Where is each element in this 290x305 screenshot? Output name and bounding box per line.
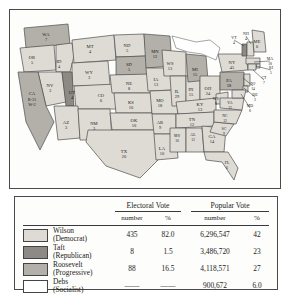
svg-text:SC: SC xyxy=(222,127,227,131)
svg-text:CA: CA xyxy=(29,91,36,96)
svg-text:NM: NM xyxy=(90,121,98,126)
svg-text:GA: GA xyxy=(209,134,216,139)
header-popular-vote: Popular Vote xyxy=(191,201,269,210)
svg-text:NJ: NJ xyxy=(251,82,256,86)
california-label: CA R-11 W-2 xyxy=(28,91,37,107)
subheader-popular-pct: % xyxy=(245,214,269,222)
svg-text:NE: NE xyxy=(126,81,132,86)
svg-text:7: 7 xyxy=(263,81,265,85)
state-shape-md[interactable] xyxy=(232,90,246,98)
svg-text:IN: IN xyxy=(188,87,194,92)
rule-electoral xyxy=(115,211,181,212)
subheader-electoral-number: number xyxy=(115,214,149,222)
svg-text:12: 12 xyxy=(153,54,157,59)
svg-text:OH: OH xyxy=(205,86,212,91)
candidate-name-block: Roosevelt(Progressive) xyxy=(53,261,115,278)
candidate-name-block: Wilson(Democrat) xyxy=(53,227,115,244)
svg-text:SD: SD xyxy=(126,62,133,67)
svg-text:MN: MN xyxy=(151,49,159,54)
svg-text:CT: CT xyxy=(261,76,267,80)
svg-text:4: 4 xyxy=(245,37,247,41)
svg-text:WA: WA xyxy=(42,32,50,37)
cell-popular-number: 4,118,571 xyxy=(191,264,239,273)
cell-popular-pct: 23 xyxy=(245,247,269,256)
state-shape-mt[interactable] xyxy=(72,35,116,63)
svg-text:12: 12 xyxy=(223,119,227,123)
state-shape-ct[interactable] xyxy=(248,64,256,70)
state-shape-or[interactable] xyxy=(20,45,56,72)
svg-text:AL: AL xyxy=(190,133,196,137)
svg-text:9: 9 xyxy=(223,132,225,136)
svg-text:MT: MT xyxy=(86,44,93,49)
state-shape-vt[interactable] xyxy=(242,44,247,56)
svg-text:MA: MA xyxy=(267,57,274,61)
svg-text:VT: VT xyxy=(231,36,237,40)
svg-text:IA: IA xyxy=(153,77,159,82)
cell-electoral-number: 88 xyxy=(115,264,149,273)
state-shape-nh[interactable] xyxy=(247,42,254,56)
state-shape-nj[interactable] xyxy=(244,74,250,86)
svg-text:6: 6 xyxy=(226,166,228,170)
svg-text:OR: OR xyxy=(29,55,36,60)
svg-text:KY: KY xyxy=(197,102,204,107)
svg-text:MI: MI xyxy=(192,67,198,72)
cell-popular-pct: 27 xyxy=(245,264,269,273)
svg-text:ID: ID xyxy=(56,59,62,64)
cell-popular-number: 6,296,547 xyxy=(191,230,239,239)
svg-text:DE: DE xyxy=(252,93,258,97)
state-shape-nc[interactable] xyxy=(214,110,242,124)
subheader-electoral-pct: % xyxy=(155,214,181,222)
cell-electoral-pct: 16.5 xyxy=(155,264,181,273)
svg-text:MS: MS xyxy=(174,134,180,138)
state-shape-fl[interactable] xyxy=(204,152,238,180)
svg-text:8: 8 xyxy=(249,109,251,113)
svg-text:12: 12 xyxy=(190,122,194,127)
svg-text:W-2: W-2 xyxy=(28,102,36,107)
svg-text:UT: UT xyxy=(69,90,75,95)
cell-popular-pct: 42 xyxy=(245,230,269,239)
candidate-name-block: Taft(Republican) xyxy=(53,244,115,261)
svg-text:RI: RI xyxy=(269,66,274,70)
subheader-popular-number: number xyxy=(191,214,239,222)
cell-popular-pct: 6.0 xyxy=(245,281,269,290)
svg-text:IL: IL xyxy=(175,89,180,94)
header-electoral-vote: Electoral Vote xyxy=(115,201,181,210)
candidate-party: (Socialist) xyxy=(53,286,115,294)
candidate-name-block: Debs(Socialist) xyxy=(53,278,115,295)
legend-swatch-taft xyxy=(23,246,48,259)
svg-text:PA: PA xyxy=(226,78,232,83)
svg-text:CO: CO xyxy=(98,93,105,98)
svg-text:KS: KS xyxy=(128,100,134,105)
state-shape-pa[interactable] xyxy=(220,72,244,90)
legend-panel: Electoral Vote Popular Vote number % num… xyxy=(14,196,278,290)
cell-electoral-number: 435 xyxy=(115,230,149,239)
state-shape-ma[interactable] xyxy=(246,58,260,64)
svg-text:WS: WS xyxy=(166,61,173,66)
svg-text:MD: MD xyxy=(247,104,254,108)
svg-text:12: 12 xyxy=(228,106,232,110)
cell-electoral-number: 8 xyxy=(115,247,149,256)
svg-text:NC: NC xyxy=(222,114,228,118)
legend-swatch-wilson xyxy=(23,229,48,242)
cell-electoral-pct: —— xyxy=(155,281,181,290)
svg-text:NY: NY xyxy=(229,60,236,65)
legend-row[interactable]: Debs(Socialist)————900,6726.0 xyxy=(15,279,279,296)
svg-text:ND: ND xyxy=(124,43,131,48)
svg-text:14: 14 xyxy=(251,87,255,91)
svg-text:AR: AR xyxy=(157,120,164,125)
legend-table: Electoral Vote Popular Vote number % num… xyxy=(15,197,279,291)
cell-popular-number: 900,672 xyxy=(191,281,239,290)
svg-text:LA: LA xyxy=(159,146,166,151)
svg-text:8: 8 xyxy=(215,102,217,106)
svg-text:VA: VA xyxy=(227,101,232,105)
cell-popular-number: 3,486,720 xyxy=(191,247,239,256)
map-panel: WA7OR5ID4MT4ND5MN12SD5WY3NE8NV3UT4CO6KS1… xyxy=(9,9,281,189)
legend-swatch-roosevelt xyxy=(23,263,48,276)
svg-text:TN: TN xyxy=(189,117,196,122)
cell-electoral-pct: 1.5 xyxy=(155,247,181,256)
us-map-svg: WA7OR5ID4MT4ND5MN12SD5WY3NE8NV3UT4CO6KS1… xyxy=(10,10,282,188)
svg-text:TX: TX xyxy=(121,149,128,154)
svg-text:MO: MO xyxy=(156,98,164,103)
svg-text:ME: ME xyxy=(253,39,260,44)
state-shape-al[interactable] xyxy=(186,128,204,152)
